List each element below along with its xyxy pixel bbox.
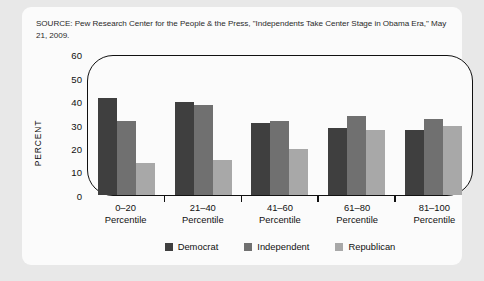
bar-democrat — [328, 128, 347, 195]
x-tick-label: 21–40 Percentile — [166, 202, 239, 227]
y-tick-label: 30 — [58, 120, 82, 131]
bar-independent — [347, 116, 366, 195]
screenshot-root: SOURCE: Pew Research Center for the Peop… — [0, 0, 484, 281]
x-tick-label-unit: Percentile — [243, 214, 316, 226]
x-tick-mark — [164, 195, 165, 202]
bar-group — [320, 56, 393, 195]
x-tick-label-unit: Percentile — [89, 214, 162, 226]
bar-democrat — [98, 98, 117, 195]
bar-group — [244, 56, 317, 195]
x-tick-label-range: 41–60 — [243, 202, 316, 214]
x-tick-label-unit: Percentile — [398, 214, 471, 226]
y-tick-label: 10 — [58, 167, 82, 178]
bar-group — [167, 56, 240, 195]
legend-label: Republican — [348, 241, 395, 252]
x-tick-label: 0–20 Percentile — [89, 202, 162, 227]
x-tick-label: 61–80 Percentile — [320, 202, 393, 227]
x-tick-label-unit: Percentile — [320, 214, 393, 226]
legend-item-democrat: Democrat — [165, 241, 219, 252]
bar-republican — [289, 149, 308, 195]
x-tick-label-range: 61–80 — [320, 202, 393, 214]
legend-item-independent: Independent — [244, 241, 309, 252]
chart-card: SOURCE: Pew Research Center for the Peop… — [22, 7, 462, 265]
bar-chart: PERCENT 60 50 40 30 20 10 0 — [36, 55, 448, 255]
source-note: SOURCE: Pew Research Center for the Peop… — [36, 18, 448, 41]
bar-independent — [194, 105, 213, 195]
bar-group — [90, 56, 163, 195]
bar-group — [397, 56, 470, 195]
y-tick-label: 20 — [58, 144, 82, 155]
bar-republican — [366, 130, 385, 195]
legend-swatch-icon — [335, 243, 343, 251]
legend-label: Democrat — [178, 241, 219, 252]
x-tick-label-range: 81–100 — [398, 202, 471, 214]
plot-area — [88, 56, 472, 195]
bar-democrat — [405, 130, 424, 195]
y-axis-title: PERCENT — [33, 103, 43, 183]
x-tick-label: 81–100 Percentile — [398, 202, 471, 227]
bar-independent — [117, 121, 136, 195]
bar-independent — [424, 119, 443, 195]
y-axis-ticks: 60 50 40 30 20 10 0 — [58, 55, 82, 196]
bar-independent — [270, 121, 289, 195]
x-tick-mark — [317, 195, 318, 202]
bar-democrat — [175, 102, 194, 195]
legend-label: Independent — [257, 241, 309, 252]
y-tick-label: 0 — [58, 191, 82, 202]
legend-swatch-icon — [244, 243, 252, 251]
x-tick-label-range: 21–40 — [166, 202, 239, 214]
x-axis-labels: 0–20 Percentile 21–40 Percentile 41–60 P… — [87, 202, 473, 227]
y-tick-label: 40 — [58, 96, 82, 107]
legend-swatch-icon — [165, 243, 173, 251]
bar-democrat — [251, 123, 270, 195]
bar-republican — [443, 126, 462, 196]
y-tick-label: 50 — [58, 73, 82, 84]
bar-republican — [136, 163, 155, 195]
legend-item-republican: Republican — [335, 241, 395, 252]
x-tick-label-range: 0–20 — [89, 202, 162, 214]
x-tick-label: 41–60 Percentile — [243, 202, 316, 227]
bar-republican — [213, 160, 232, 195]
x-tick-label-unit: Percentile — [166, 214, 239, 226]
y-tick-label: 60 — [58, 50, 82, 61]
x-tick-mark — [241, 195, 242, 202]
chart-legend: Democrat Independent Republican — [87, 241, 473, 252]
x-tick-mark — [394, 195, 395, 202]
